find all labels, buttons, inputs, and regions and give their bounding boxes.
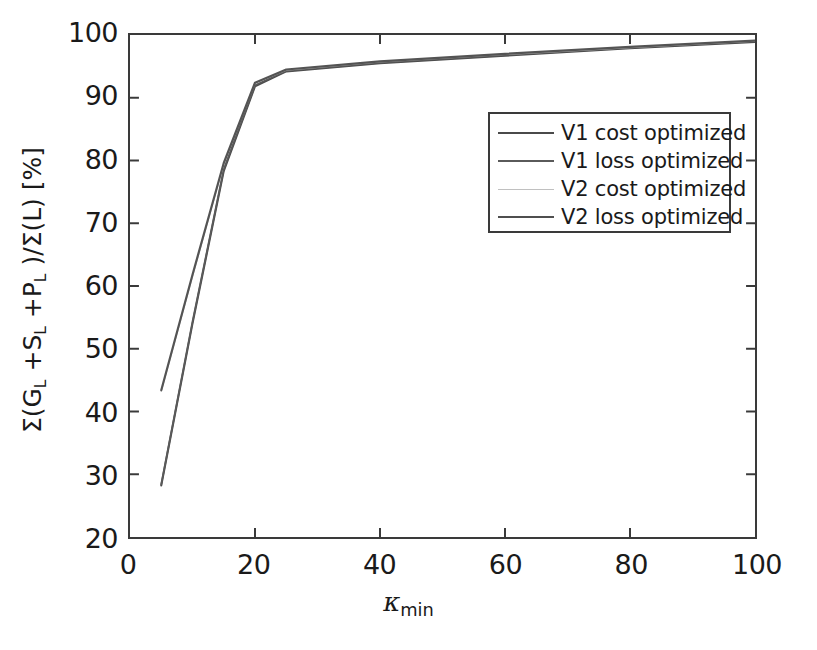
x-axis-label-sub: min [400, 599, 434, 620]
legend-line-swatch [498, 216, 554, 218]
y-tick-label: 20 [85, 525, 118, 552]
y-axis-label-container: Σ(GL +SL +PL )/Σ(L) [%] [14, 0, 60, 580]
y-tick-label: 80 [85, 146, 118, 173]
legend-line-swatch [498, 132, 554, 134]
legend-item[interactable]: V2 loss optimized [490, 203, 729, 231]
legend-line-swatch [498, 189, 554, 190]
y-tick-label: 50 [85, 335, 118, 362]
y-tick-label: 100 [68, 19, 118, 46]
x-tick-label: 60 [465, 551, 545, 578]
y-axis-label-sub-2: L [32, 326, 50, 335]
y-tick-label: 40 [85, 399, 118, 426]
y-axis-label: Σ(GL +SL +PL )/Σ(L) [%] [18, 147, 55, 433]
legend-item[interactable]: V2 cost optimized [490, 175, 729, 203]
legend-box[interactable]: V1 cost optimizedV1 loss optimizedV2 cos… [488, 112, 731, 233]
x-tick-label: 20 [214, 551, 294, 578]
y-tick-label: 90 [85, 82, 118, 109]
y-axis-label-part-2: +S [18, 335, 47, 380]
y-tick-label: 30 [85, 462, 118, 489]
series-line [161, 42, 755, 486]
y-axis-label-part-3: +P [18, 282, 47, 326]
x-axis-label-base: κ [383, 587, 400, 617]
x-tick-label: 0 [88, 551, 168, 578]
legend-label: V2 cost optimized [561, 179, 746, 200]
y-tick-label: 60 [85, 272, 118, 299]
x-tick-label: 40 [340, 551, 420, 578]
x-axis-label: κmin [0, 586, 817, 620]
legend-label: V2 loss optimized [561, 207, 743, 228]
y-axis-label-part-1: Σ(G [18, 388, 47, 433]
y-axis-label-sub-1: L [32, 380, 50, 389]
legend-item[interactable]: V1 loss optimized [490, 147, 729, 175]
series-line [161, 41, 755, 484]
y-tick-label: 70 [85, 209, 118, 236]
x-tick-label: 80 [591, 551, 671, 578]
legend-item[interactable]: V1 cost optimized [490, 119, 729, 147]
plot-area [128, 33, 757, 539]
legend-label: V1 loss optimized [561, 151, 743, 172]
legend-line-swatch [498, 160, 554, 162]
y-axis-label-part-4: )/Σ(L) [%] [18, 147, 47, 274]
chart-figure: Σ(GL +SL +PL )/Σ(L) [%] 2030405060708090… [0, 0, 817, 650]
y-axis-label-sub-3: L [32, 273, 50, 282]
plot-lines-svg [130, 35, 755, 537]
x-tick-label: 100 [717, 551, 797, 578]
legend-label: V1 cost optimized [561, 123, 746, 144]
